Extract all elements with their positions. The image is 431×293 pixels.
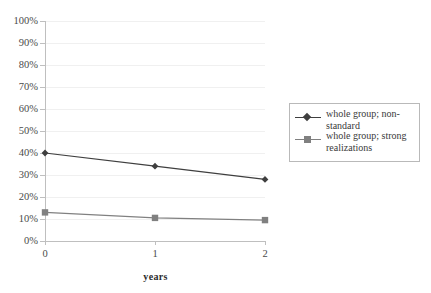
data-point-diamond: [42, 150, 49, 157]
data-point-square: [42, 209, 48, 215]
line-chart: 0%10%20%30%40%50%60%70%80%90%100% 012 ye…: [0, 0, 431, 293]
data-point-diamond: [262, 176, 269, 183]
chart-legend: whole group; non-standard whole group; s…: [289, 103, 420, 162]
data-point-diamond: [152, 163, 159, 170]
legend-marker-diamond-icon: [295, 113, 321, 122]
data-point-square: [262, 217, 268, 223]
data-point-square: [152, 215, 158, 221]
legend-label: whole group; strong realizations: [326, 130, 421, 153]
legend-marker-square-icon: [295, 135, 321, 144]
legend-label: whole group; non-standard: [326, 108, 421, 131]
